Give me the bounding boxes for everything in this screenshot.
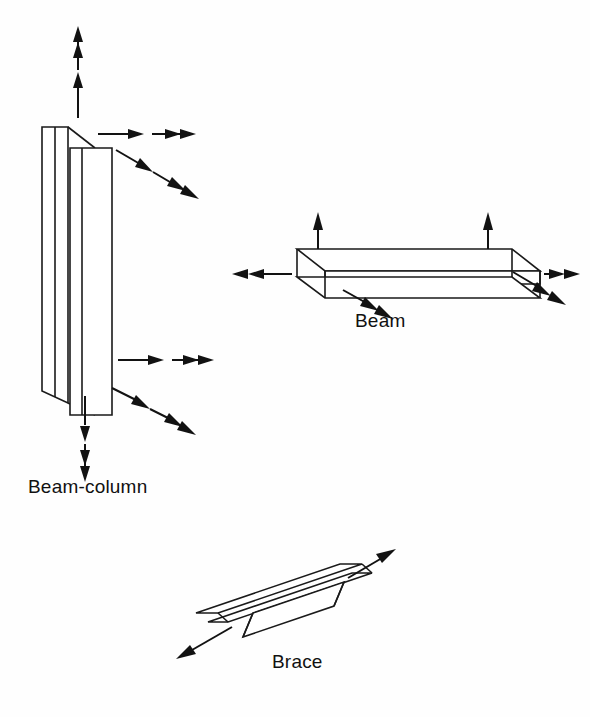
arrow-head-down-right <box>131 395 150 409</box>
arrow-head-down-right-inner <box>167 177 186 191</box>
arrow-head-down-left <box>176 645 196 659</box>
arrow-head-up-outer <box>73 26 83 42</box>
beam-column-moment-top-oblique <box>153 172 199 199</box>
beam-shear-force-right-end <box>483 212 493 249</box>
arrow-head-down-inner <box>80 450 90 466</box>
arrow-head-down-right-inner <box>164 413 183 427</box>
beam-moment-left-end <box>232 269 292 279</box>
beam-member <box>297 249 540 298</box>
beam-column-member <box>42 127 112 415</box>
arrow-head-right-outer <box>198 355 214 365</box>
beam-column-moment-bottom-lateral <box>172 355 214 365</box>
arrow-head-down-right <box>135 158 153 172</box>
label-beam: Beam <box>355 310 405 332</box>
brace-member <box>196 564 372 637</box>
beam-column-shear-force-top <box>98 129 144 139</box>
beam-top-flange <box>297 249 540 271</box>
arrow-head-down-right-outer <box>177 421 196 435</box>
arrow-head-right-outer <box>180 129 196 139</box>
beam-column-force-top-oblique <box>116 150 153 172</box>
label-brace: Brace <box>272 651 323 673</box>
arrow-head-up <box>483 212 493 230</box>
arrow-head-up-inner <box>73 42 83 58</box>
arrow-head-up <box>73 72 83 88</box>
arrow-head-right-inner <box>183 355 199 365</box>
structural-members-diagram <box>0 0 590 717</box>
beam-moment-right-end <box>544 269 580 279</box>
arrow-head-right <box>148 355 164 365</box>
beam-column-axial-force-top <box>73 72 83 118</box>
arrow-head-right-inner <box>165 129 181 139</box>
arrow-head-down-right-inner <box>360 297 379 311</box>
arrow-head-left-inner <box>248 269 264 279</box>
arrow-head-right <box>128 129 144 139</box>
beam-column-moment-top <box>73 26 83 70</box>
arrow-head-right-outer <box>564 269 580 279</box>
beam-column-force-bottom-oblique <box>112 388 150 409</box>
beam-column-web-top <box>68 127 95 148</box>
arrow-head-down-right-outer <box>547 291 566 305</box>
brace-axial-force-lower <box>176 627 232 659</box>
beam-column-moment-top-lateral <box>152 129 196 139</box>
arrow-head-up <box>313 212 323 230</box>
arrow-head-left-outer <box>232 269 248 279</box>
arrow-head-down <box>80 426 90 442</box>
beam-column-moment-bottom-oblique <box>150 409 196 435</box>
label-beam-column: Beam-column <box>28 476 147 498</box>
beam-column-shear-force-bottom <box>118 355 164 365</box>
figure-canvas: Beam-column Beam Brace <box>0 0 590 717</box>
beam-bottom-flange <box>297 277 540 298</box>
beam-column-front-flange <box>70 148 112 415</box>
beam-shear-force-left-end <box>313 212 323 249</box>
arrow-head-right-inner <box>549 269 565 279</box>
arrow-head-down-right-outer <box>180 185 199 199</box>
